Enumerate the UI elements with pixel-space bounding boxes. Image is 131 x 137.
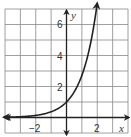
y-axis-label: y bbox=[70, 9, 76, 21]
curve-line bbox=[3, 3, 97, 117]
y-tick-label-6: 6 bbox=[57, 19, 63, 30]
x-tick-label-neg2: −2 bbox=[29, 123, 41, 134]
y-tick-label-2: 2 bbox=[57, 82, 63, 93]
x-axis-label: x bbox=[118, 122, 124, 134]
tick-labels: −2 2 2 4 6 x y bbox=[29, 9, 124, 134]
x-tick-label-2: 2 bbox=[94, 123, 100, 134]
exponential-graph: −2 2 2 4 6 x y bbox=[0, 0, 131, 137]
exponential-curve bbox=[3, 3, 97, 117]
y-tick-label-4: 4 bbox=[57, 51, 63, 62]
